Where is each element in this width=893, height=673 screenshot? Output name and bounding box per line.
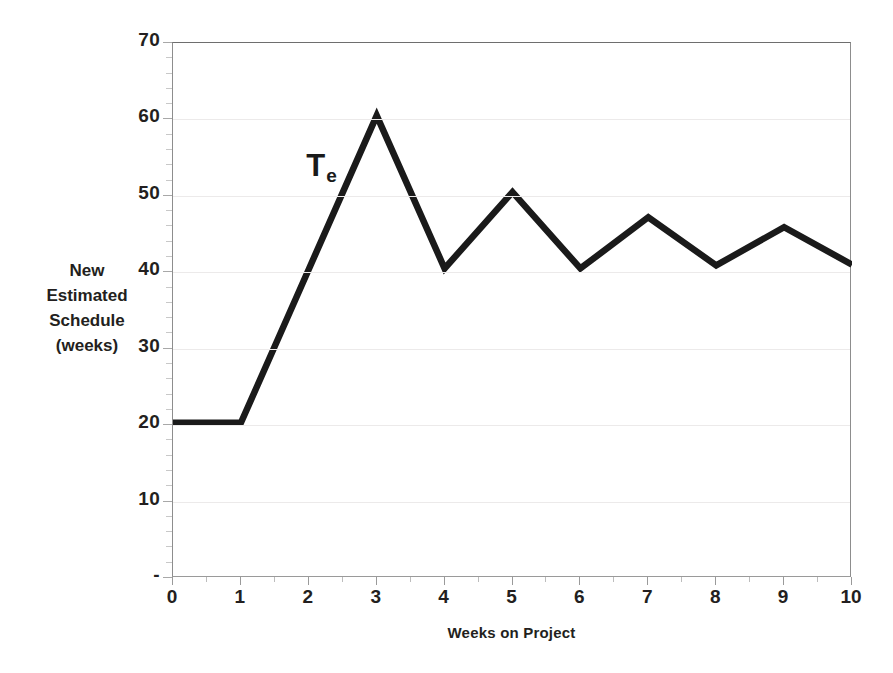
gridline: [173, 502, 850, 503]
x-axis-tickmark: [444, 577, 445, 585]
y-axis-tickmark: [163, 501, 172, 502]
y-axis-tickmark: [163, 195, 172, 196]
x-axis-tickmark: [240, 577, 241, 585]
x-axis-tickmark: [376, 577, 377, 585]
gridline: [173, 196, 850, 197]
gridline: [173, 349, 850, 350]
y-axis-tick-labels: -10203040506070: [85, 0, 160, 673]
x-axis-tickmark: [715, 577, 716, 585]
gridline: [173, 425, 850, 426]
y-axis-tick-label: 30: [100, 335, 160, 357]
y-axis-tick-label: 20: [100, 411, 160, 433]
x-axis-tickmark: [579, 577, 580, 585]
series-label-te-subscript: e: [326, 165, 337, 186]
y-axis-tick-label: 60: [100, 105, 160, 127]
y-axis-tickmark: [163, 348, 172, 349]
x-axis-tickmark: [512, 577, 513, 585]
chart-container: New Estimated Schedule (weeks) -10203040…: [0, 0, 893, 673]
y-axis-tick-label: 70: [100, 29, 160, 51]
x-axis-tick-label: 2: [283, 586, 333, 608]
y-axis-tickmark: [163, 577, 172, 578]
y-axis-tickmark: [163, 42, 172, 43]
series-label-te-base: T: [306, 148, 325, 183]
data-series-line: [173, 43, 852, 578]
x-axis-tickmark: [647, 577, 648, 585]
x-axis-tickmark: [308, 577, 309, 585]
x-axis-tick-labels: 012345678910: [0, 586, 893, 618]
gridline: [173, 272, 850, 273]
y-axis-tick-label: 40: [100, 258, 160, 280]
y-axis-tickmark: [163, 118, 172, 119]
series-polyline: [173, 116, 852, 423]
plot-area: [172, 42, 851, 577]
y-axis-tickmark: [163, 424, 172, 425]
x-axis-tick-label: 10: [826, 586, 876, 608]
x-axis-tick-label: 4: [419, 586, 469, 608]
x-axis-title: Weeks on Project: [172, 624, 851, 641]
x-axis-tick-label: 3: [351, 586, 401, 608]
y-axis-tick-label: -: [100, 564, 160, 586]
x-axis-tick-label: 5: [487, 586, 537, 608]
x-axis-tick-label: 8: [690, 586, 740, 608]
x-axis-tickmark: [172, 577, 173, 585]
x-axis-tick-label: 7: [622, 586, 672, 608]
x-axis-tick-label: 6: [554, 586, 604, 608]
y-axis-tick-label: 10: [100, 488, 160, 510]
y-axis-tick-label: 50: [100, 182, 160, 204]
gridline: [173, 119, 850, 120]
x-axis-tick-label: 9: [758, 586, 808, 608]
x-axis-tickmark: [783, 577, 784, 585]
x-axis-tick-label: 0: [147, 586, 197, 608]
series-label-te: Te: [306, 150, 336, 181]
x-axis-tick-label: 1: [215, 586, 265, 608]
y-axis-tickmark: [163, 271, 172, 272]
x-axis-tickmark: [851, 577, 852, 585]
